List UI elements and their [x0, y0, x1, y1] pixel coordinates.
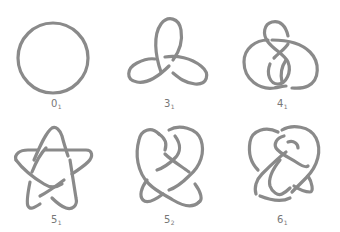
- knot-cell-4-1: 41: [226, 0, 339, 116]
- knot-label: 01: [0, 98, 113, 110]
- knot-label: 51: [0, 214, 113, 226]
- knot-cell-6-1: 61: [226, 116, 339, 232]
- knot-cell-5-2: 52: [113, 116, 226, 232]
- knot-label: 41: [226, 98, 339, 110]
- knot-cell-0-1: 01: [0, 0, 113, 116]
- knot-label: 52: [113, 214, 226, 226]
- knot-cell-3-1: 31: [113, 0, 226, 116]
- knot-cell-5-1: 51: [0, 116, 113, 232]
- knot-label: 31: [113, 98, 226, 110]
- knot-label: 61: [226, 214, 339, 226]
